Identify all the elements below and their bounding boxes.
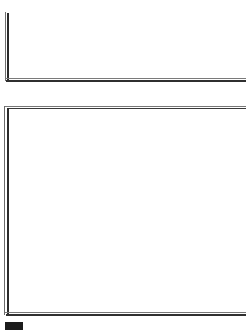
lower-frame-top-rule-inner [9, 108, 246, 109]
page-canvas [0, 0, 246, 332]
black-marker-block [5, 322, 23, 330]
lower-frame-top-rule-outer [5, 106, 246, 107]
lower-frame-bottom-rule-outer [5, 312, 246, 313]
lower-rectangle-frame [0, 0, 246, 332]
lower-frame-left-rule-inner [7, 108, 9, 314]
lower-frame-bottom-rule-inner [6, 314, 246, 316]
lower-frame-content-area [11, 111, 244, 311]
lower-frame-left-rule-outer [4, 106, 5, 315]
